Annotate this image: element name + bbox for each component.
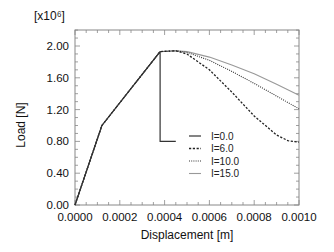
y-tick-label: 1.60 bbox=[47, 72, 69, 84]
y-tick-label: 0.80 bbox=[47, 135, 69, 147]
y-multiplier-label: [x10⁶] bbox=[34, 9, 65, 23]
legend-label: I=0.0 bbox=[211, 131, 234, 142]
y-tick-label: 0.40 bbox=[47, 167, 69, 179]
series-line bbox=[75, 51, 299, 205]
load-displacement-chart: 0.00000.00020.00040.00060.00080.00100.00… bbox=[0, 0, 334, 252]
series-line bbox=[75, 52, 176, 205]
y-tick-label: 0.00 bbox=[47, 199, 69, 211]
data-series bbox=[75, 51, 299, 205]
legend-label: I=10.0 bbox=[211, 156, 240, 167]
y-tick-label: 2.00 bbox=[47, 40, 69, 52]
x-tick-label: 0.0000 bbox=[57, 211, 92, 223]
x-tick-label: 0.0006 bbox=[192, 211, 227, 223]
legend-label: I=15.0 bbox=[211, 168, 240, 179]
x-tick-label: 0.0004 bbox=[147, 211, 183, 223]
y-axis-title: Load [N] bbox=[14, 102, 28, 147]
series-line bbox=[75, 51, 299, 205]
x-tick-label: 0.0010 bbox=[281, 211, 316, 223]
series-line bbox=[75, 51, 299, 205]
legend: I=0.0I=6.0I=10.0I=15.0 bbox=[189, 131, 240, 180]
y-tick-label: 1.20 bbox=[47, 104, 69, 116]
x-tick-label: 0.0002 bbox=[102, 211, 137, 223]
x-axis-title: Displacement [m] bbox=[141, 228, 234, 242]
legend-label: I=6.0 bbox=[211, 143, 234, 154]
x-tick-label: 0.0008 bbox=[237, 211, 272, 223]
axis-ticks: 0.00000.00020.00040.00060.00080.00100.00… bbox=[47, 30, 317, 223]
